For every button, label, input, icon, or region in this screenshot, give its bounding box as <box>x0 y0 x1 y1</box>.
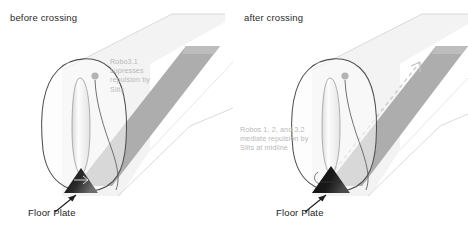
commissural-neuron <box>322 78 340 176</box>
axon-guidance-figure: before crossing <box>0 0 468 229</box>
panel-before-graphic <box>0 0 234 229</box>
floor-plate-label-after: Floor Plate <box>276 207 324 218</box>
panel-before-crossing: before crossing <box>0 0 234 229</box>
panel-after-crossing: after crossing <box>234 0 468 229</box>
commissural-neuron <box>72 78 90 176</box>
annotation-robos123: Robos 1, 2, and 3.2 mediate repulsion by… <box>240 125 308 153</box>
panel-after-graphic <box>234 0 468 229</box>
floor-plate-label-before: Floor Plate <box>28 207 76 218</box>
annotation-robo31: Robo3.1 supresses repulsion by Slits <box>110 57 150 94</box>
